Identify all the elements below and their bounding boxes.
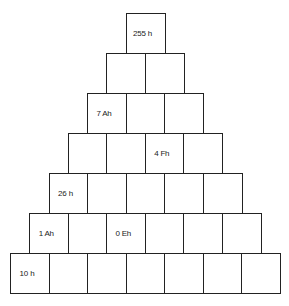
pyramid-cell <box>222 213 262 254</box>
pyramid-cell <box>106 53 146 94</box>
pyramid-cell: 10 h <box>10 253 50 294</box>
cell-label: 26 h <box>50 174 82 213</box>
pyramid-cell <box>126 173 166 214</box>
cell-label: 0 Eh <box>107 214 139 253</box>
pyramid-cell: 255 h <box>126 13 166 54</box>
cell-label <box>146 214 178 253</box>
pyramid-cell <box>164 173 204 214</box>
cell-label <box>107 54 139 93</box>
pyramid-cell <box>164 93 204 134</box>
pyramid-cell <box>106 133 146 174</box>
pyramid-cell <box>164 253 204 294</box>
pyramid-cell <box>183 213 223 254</box>
pyramid-cell: 1 Ah <box>29 213 69 254</box>
cell-label <box>146 54 178 93</box>
cell-label: 4 Fh <box>146 134 178 173</box>
cell-label <box>184 134 216 173</box>
cell-label: 7 Ah <box>88 94 120 133</box>
cell-label <box>127 254 159 293</box>
cell-label <box>165 94 197 133</box>
pyramid-cell <box>145 53 185 94</box>
pyramid-cell <box>49 253 89 294</box>
pyramid-cell: 26 h <box>49 173 89 214</box>
pyramid-cell <box>241 253 281 294</box>
pyramid-cell <box>145 213 185 254</box>
cell-label <box>88 254 120 293</box>
cell-label <box>69 134 101 173</box>
pyramid-cell <box>87 253 127 294</box>
pyramid-cell <box>87 173 127 214</box>
pyramid-cell: 0 Eh <box>106 213 146 254</box>
cell-label <box>242 254 274 293</box>
pyramid-cell <box>126 93 166 134</box>
cell-label <box>165 174 197 213</box>
pyramid-cell <box>68 133 108 174</box>
pyramid-cell: 7 Ah <box>87 93 127 134</box>
cell-label <box>127 94 159 133</box>
cell-label: 10 h <box>11 254 43 293</box>
cell-label <box>69 214 101 253</box>
pyramid-cell <box>68 213 108 254</box>
pyramid-cell <box>203 173 243 214</box>
cell-label <box>165 254 197 293</box>
cell-label <box>50 254 82 293</box>
cell-label <box>204 254 236 293</box>
pyramid-cell <box>203 253 243 294</box>
number-pyramid: 255 h7 Ah4 Fh26 h1 Ah0 Eh10 h <box>0 0 289 306</box>
cell-label: 1 Ah <box>30 214 62 253</box>
cell-label <box>223 214 255 253</box>
cell-label <box>204 174 236 213</box>
pyramid-cell: 4 Fh <box>145 133 185 174</box>
cell-label <box>127 174 159 213</box>
cell-label <box>184 214 216 253</box>
cell-label <box>88 174 120 213</box>
cell-label: 255 h <box>127 14 159 53</box>
pyramid-cell <box>183 133 223 174</box>
pyramid-cell <box>126 253 166 294</box>
cell-label <box>107 134 139 173</box>
